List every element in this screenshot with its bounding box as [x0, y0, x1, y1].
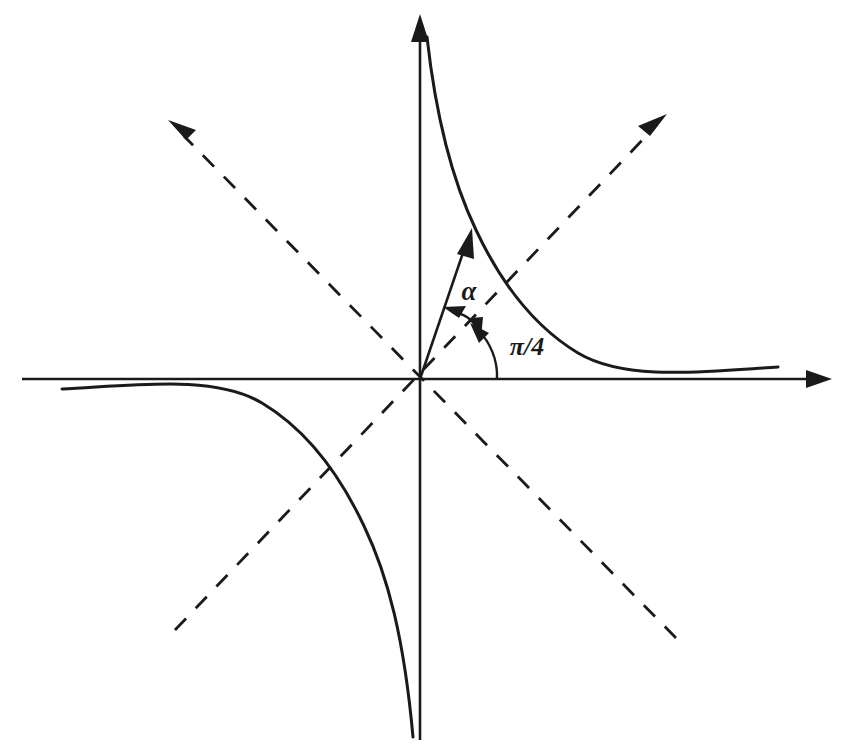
pi-over-four-arc-group	[470, 323, 497, 379]
hyperbola-branch-quadrant-iii	[62, 384, 413, 737]
x-axis-arrow-icon	[806, 370, 832, 388]
angle-ray-arrow-icon	[457, 228, 474, 259]
alpha-arc-arrow-start-icon	[443, 306, 466, 318]
asymptote-antidiagonal-arrow-icon	[168, 120, 196, 140]
asymptote-diagonal-line	[175, 132, 650, 630]
figure-canvas: α π/4	[0, 0, 843, 752]
hyperbola-figure: α π/4	[0, 0, 843, 752]
asymptote-antidiagonal-line	[184, 136, 676, 638]
pi-over-four-label: π/4	[510, 332, 544, 361]
alpha-label: α	[462, 276, 478, 306]
asymptote-diagonal-arrow-icon	[638, 114, 667, 136]
